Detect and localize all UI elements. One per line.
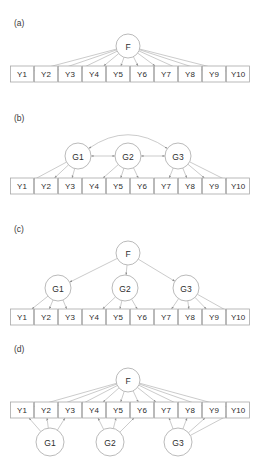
edge-G3-Y8 xyxy=(183,168,187,178)
edge-F-Y7 xyxy=(138,53,155,66)
panel-label-b: (b) xyxy=(14,113,25,123)
factor-model-figure: Y1Y2Y3Y4Y5Y6Y7Y8Y9Y10FY1Y2Y3Y4Y5Y6Y7Y8Y9… xyxy=(0,0,261,472)
observed-label: Y1 xyxy=(17,182,27,191)
observed-node-y1[interactable]: Y1 xyxy=(11,66,34,82)
latent-node-g2[interactable]: G2 xyxy=(115,143,141,169)
observed-label: Y7 xyxy=(161,182,171,191)
observed-label: Y9 xyxy=(209,70,219,79)
observed-label: Y2 xyxy=(41,406,51,415)
observed-node-y8[interactable]: Y8 xyxy=(179,66,202,82)
edge-F-G2 xyxy=(126,265,127,275)
observed-label: Y8 xyxy=(185,70,195,79)
latent-label: F xyxy=(125,376,130,386)
observed-node-y9[interactable]: Y9 xyxy=(203,178,226,194)
observed-label: Y6 xyxy=(137,406,147,415)
observed-label: Y4 xyxy=(89,406,99,415)
latent-label: G3 xyxy=(180,284,192,294)
observed-label: Y3 xyxy=(65,313,75,322)
observed-node-y6[interactable]: Y6 xyxy=(131,309,154,325)
observed-label: Y5 xyxy=(113,406,123,415)
panel-a-nodes: Y1Y2Y3Y4Y5Y6Y7Y8Y9Y10F xyxy=(11,34,250,82)
observed-node-y7[interactable]: Y7 xyxy=(155,309,178,325)
observed-node-y7[interactable]: Y7 xyxy=(155,402,178,418)
observed-node-y4[interactable]: Y4 xyxy=(83,309,106,325)
observed-node-y1[interactable]: Y1 xyxy=(11,178,34,194)
edge-G2-Y5 xyxy=(113,418,116,428)
observed-label: Y10 xyxy=(231,406,246,415)
observed-node-y5[interactable]: Y5 xyxy=(107,66,130,82)
observed-node-y10[interactable]: Y10 xyxy=(227,309,250,325)
edge-G3-Y9 xyxy=(195,297,206,309)
observed-node-y7[interactable]: Y7 xyxy=(155,178,178,194)
observed-node-y1[interactable]: Y1 xyxy=(11,402,34,418)
observed-node-y2[interactable]: Y2 xyxy=(35,402,58,418)
observed-node-y6[interactable]: Y6 xyxy=(131,66,154,82)
observed-label: Y9 xyxy=(209,313,219,322)
observed-label: Y3 xyxy=(65,406,75,415)
latent-node-g2[interactable]: G2 xyxy=(112,275,138,301)
observed-label: Y7 xyxy=(161,70,171,79)
latent-node-f[interactable]: F xyxy=(116,368,140,392)
observed-node-y2[interactable]: Y2 xyxy=(35,309,58,325)
figure-canvas: Y1Y2Y3Y4Y5Y6Y7Y8Y9Y10FY1Y2Y3Y4Y5Y6Y7Y8Y9… xyxy=(0,0,261,472)
observed-label: Y10 xyxy=(231,313,246,322)
edge-F-Y6 xyxy=(133,391,138,402)
latent-label: G2 xyxy=(104,438,116,448)
edge-G2-Y6 xyxy=(120,418,134,432)
observed-node-y3[interactable]: Y3 xyxy=(59,178,82,194)
observed-label: Y3 xyxy=(65,70,75,79)
observed-node-y9[interactable]: Y9 xyxy=(203,66,226,82)
edge-G1-Y1 xyxy=(34,162,67,180)
observed-node-y10[interactable]: Y10 xyxy=(227,402,250,418)
edge-G3-Y9 xyxy=(188,164,204,178)
latent-node-g3[interactable]: G3 xyxy=(173,275,199,301)
observed-label: Y10 xyxy=(231,70,246,79)
latent-node-g2[interactable]: G2 xyxy=(96,428,124,456)
observed-node-y6[interactable]: Y6 xyxy=(131,178,154,194)
panel-label-a: (a) xyxy=(14,18,25,28)
observed-node-y2[interactable]: Y2 xyxy=(35,66,58,82)
latent-label: F xyxy=(125,42,130,52)
latent-node-g3[interactable]: G3 xyxy=(165,143,191,169)
observed-node-y2[interactable]: Y2 xyxy=(35,178,58,194)
observed-node-y4[interactable]: Y4 xyxy=(83,66,106,82)
latent-node-g1[interactable]: G1 xyxy=(65,143,91,169)
edge-F-Y4 xyxy=(103,388,119,402)
observed-node-y4[interactable]: Y4 xyxy=(83,402,106,418)
observed-label: Y5 xyxy=(113,313,123,322)
latent-node-g1[interactable]: G1 xyxy=(45,275,71,301)
latent-node-f[interactable]: F xyxy=(116,241,140,265)
observed-node-y3[interactable]: Y3 xyxy=(59,402,82,418)
observed-node-y9[interactable]: Y9 xyxy=(203,402,226,418)
edge-G1-Y2 xyxy=(47,418,48,428)
observed-node-y3[interactable]: Y3 xyxy=(59,66,82,82)
observed-node-y6[interactable]: Y6 xyxy=(131,402,154,418)
observed-node-y9[interactable]: Y9 xyxy=(203,309,226,325)
latent-node-g3[interactable]: G3 xyxy=(164,428,192,456)
observed-node-y8[interactable]: Y8 xyxy=(179,402,202,418)
edge-G3-Y7 xyxy=(172,299,179,309)
observed-node-y1[interactable]: Y1 xyxy=(11,309,34,325)
panel-c-nodes: Y1Y2Y3Y4Y5Y6Y7Y8Y9Y10FG1G2G3 xyxy=(11,241,250,325)
observed-node-y10[interactable]: Y10 xyxy=(227,178,250,194)
observed-label: Y7 xyxy=(161,406,171,415)
edge-G2-Y5 xyxy=(120,301,122,309)
edge-F-Y4 xyxy=(104,54,119,66)
observed-label: Y1 xyxy=(17,313,27,322)
observed-node-y10[interactable]: Y10 xyxy=(227,66,250,82)
latent-label: G2 xyxy=(119,284,131,294)
observed-node-y7[interactable]: Y7 xyxy=(155,66,178,82)
observed-node-y5[interactable]: Y5 xyxy=(107,309,130,325)
observed-node-y5[interactable]: Y5 xyxy=(107,402,130,418)
observed-node-y4[interactable]: Y4 xyxy=(83,178,106,194)
latent-node-g1[interactable]: G1 xyxy=(36,428,64,456)
observed-node-y5[interactable]: Y5 xyxy=(107,178,130,194)
observed-label: Y2 xyxy=(41,182,51,191)
observed-node-y8[interactable]: Y8 xyxy=(179,309,202,325)
latent-node-f[interactable]: F xyxy=(116,34,140,58)
observed-node-y8[interactable]: Y8 xyxy=(179,178,202,194)
latent-label: G3 xyxy=(172,152,184,162)
edge-F-Y5 xyxy=(121,391,125,402)
observed-label: Y3 xyxy=(65,182,75,191)
observed-node-y3[interactable]: Y3 xyxy=(59,309,82,325)
